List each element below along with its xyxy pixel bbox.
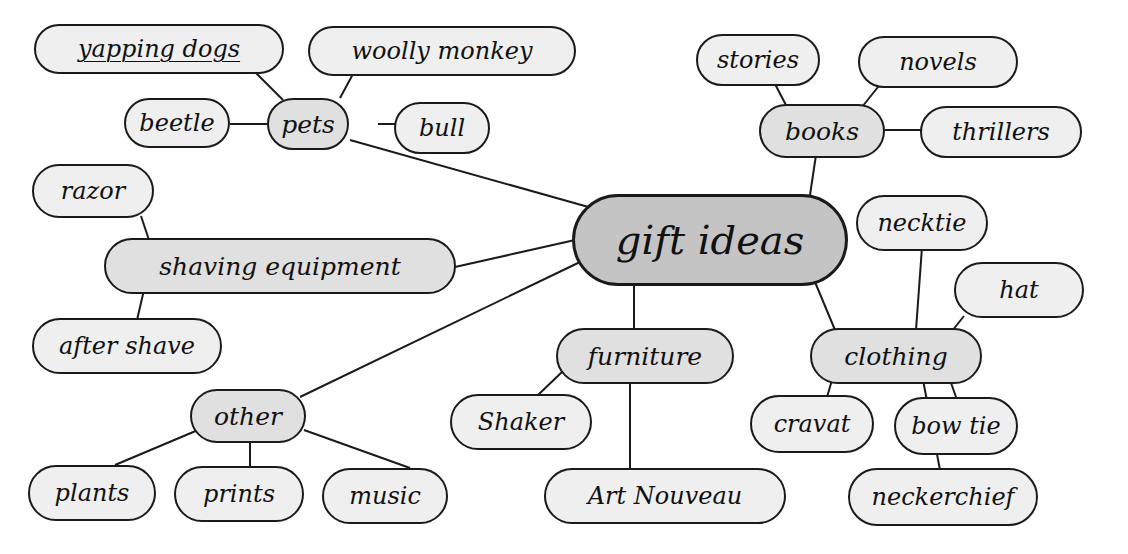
node-pets[interactable]: pets [267, 98, 349, 150]
node-label: furniture [588, 344, 702, 369]
node-beetle[interactable]: beetle [124, 98, 230, 148]
node-label: clothing [844, 344, 947, 369]
node-necktie[interactable]: necktie [856, 195, 988, 251]
node-bow-tie[interactable]: bow tie [894, 397, 1018, 455]
node-books[interactable]: books [759, 104, 885, 158]
node-label: other [214, 404, 282, 429]
node-label: shaving equipment [159, 254, 401, 279]
node-label: razor [61, 179, 125, 203]
node-prints[interactable]: prints [174, 466, 304, 522]
node-cravat[interactable]: cravat [750, 395, 874, 453]
node-razor[interactable]: razor [32, 164, 154, 218]
node-label: stories [717, 48, 799, 72]
node-label: bull [419, 116, 465, 140]
node-label: music [349, 484, 421, 508]
node-label: prints [203, 482, 275, 506]
node-woolly-monkey[interactable]: woolly monkey [308, 26, 576, 76]
node-neckerchief[interactable]: neckerchief [848, 468, 1038, 526]
node-furniture[interactable]: furniture [556, 328, 734, 384]
node-thrillers[interactable]: thrillers [920, 106, 1082, 158]
node-gift-ideas[interactable]: gift ideas [572, 194, 848, 286]
node-label: beetle [139, 111, 214, 135]
node-shaker[interactable]: Shaker [450, 394, 592, 450]
node-shaving-equipment[interactable]: shaving equipment [104, 238, 456, 294]
node-label: Art Nouveau [588, 484, 743, 508]
node-plants[interactable]: plants [28, 465, 156, 521]
node-novels[interactable]: novels [858, 36, 1018, 88]
node-label: books [785, 119, 859, 144]
node-clothing[interactable]: clothing [810, 328, 982, 384]
node-yapping-dogs[interactable]: yapping dogs [34, 24, 284, 74]
node-stories[interactable]: stories [696, 34, 820, 86]
node-label: thrillers [952, 120, 1050, 144]
node-label: hat [999, 278, 1038, 302]
node-label: gift ideas [616, 220, 804, 260]
node-label: bow tie [911, 414, 1001, 438]
node-after-shave[interactable]: after shave [32, 318, 222, 374]
node-label: Shaker [478, 410, 564, 434]
node-label: cravat [774, 412, 851, 436]
node-hat[interactable]: hat [954, 262, 1084, 318]
node-art-nouveau[interactable]: Art Nouveau [544, 468, 786, 524]
node-label: plants [55, 481, 130, 505]
node-label: novels [899, 50, 977, 74]
node-label: neckerchief [872, 485, 1015, 509]
node-bull[interactable]: bull [394, 102, 490, 154]
node-other[interactable]: other [190, 389, 306, 443]
node-label: necktie [877, 211, 966, 235]
mind-map-canvas: gift ideas pets yapping dogs woolly monk… [0, 0, 1128, 554]
node-music[interactable]: music [322, 468, 448, 524]
node-label: after shave [59, 334, 195, 358]
node-label: pets [281, 112, 335, 137]
node-label: yapping dogs [78, 37, 240, 61]
node-label: woolly monkey [352, 39, 533, 63]
